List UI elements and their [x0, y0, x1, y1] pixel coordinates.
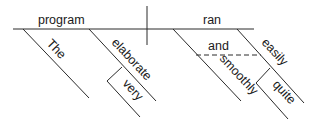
modifier-word-the: The — [44, 36, 69, 61]
modifier-word-elaborate: elaborate — [109, 35, 155, 83]
modifier-word-quite: quite — [270, 77, 299, 106]
verb-word: ran — [203, 13, 221, 27]
conjunction-word: and — [208, 39, 229, 53]
modifier-word-smoothly: smoothly — [217, 51, 262, 98]
sentence-diagram: program ran The elaborate very smoothly … — [0, 0, 314, 129]
modifier-word-easily: easily — [259, 35, 292, 68]
subject-word: program — [38, 13, 85, 27]
